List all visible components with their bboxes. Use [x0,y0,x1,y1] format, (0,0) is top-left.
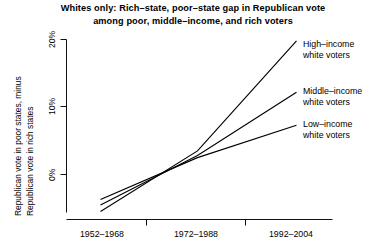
series-label-low-income-line-1: Low–income [303,119,352,130]
series-label-high-income: High–income white voters [303,39,354,61]
series-label-high-income-line-1: High–income [303,39,354,50]
series-label-low-income: Low–income white voters [303,119,352,141]
series-label-middle-income: Middle–income white voters [303,86,362,108]
x-tick-label-1992-2004: 1992–2004 [269,229,313,239]
x-tick-label-1972-1988: 1972–1988 [174,229,218,239]
chart-figure: Whites only: Rich–state, poor–state gap … [0,0,386,249]
series-label-middle-income-line-1: Middle–income [303,86,362,97]
series-line-middle-income [101,92,297,205]
series-line-low-income [101,125,297,199]
series-label-low-income-line-2: white voters [303,130,352,141]
series-label-high-income-line-2: white voters [303,50,354,61]
series-label-middle-income-line-2: white voters [303,97,362,108]
series-lines [101,41,297,212]
series-line-high-income [101,41,297,212]
x-tick-label-1952-1968: 1952–1968 [80,229,124,239]
